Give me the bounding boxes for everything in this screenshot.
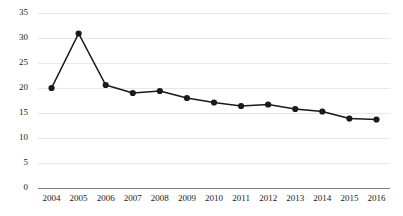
data-point-markers [48,30,379,122]
line-chart: 05101520253035 2004200520062007200820092… [0,0,403,216]
data-point [103,82,109,88]
x-tick-label: 2008 [145,194,175,203]
data-point [48,85,54,91]
data-series-line [52,34,377,120]
gridlines [38,13,390,163]
x-tick-label: 2012 [253,194,283,203]
x-tick-label: 2011 [226,194,256,203]
data-point [211,99,217,105]
y-tick-label: 10 [8,133,28,142]
data-point [184,95,190,101]
data-point [346,115,352,121]
x-tick-label: 2015 [334,194,364,203]
x-tick-label: 2013 [280,194,310,203]
data-point [130,90,136,96]
data-point [292,106,298,112]
data-point [265,101,271,107]
x-tick-label: 2005 [64,194,94,203]
x-tick-label: 2006 [91,194,121,203]
x-tick-label: 2004 [37,194,67,203]
y-tick-label: 15 [8,108,28,117]
data-point [319,108,325,114]
x-tick-label: 2014 [307,194,337,203]
x-tick-label: 2007 [118,194,148,203]
chart-plot-area [0,0,403,216]
data-point [76,30,82,36]
data-point [238,103,244,109]
y-tick-label: 5 [8,158,28,167]
x-tick-label: 2010 [199,194,229,203]
data-point [157,88,163,94]
y-tick-label: 35 [8,8,28,17]
x-tick-label: 2016 [361,194,391,203]
y-tick-label: 20 [8,83,28,92]
x-tick-label: 2009 [172,194,202,203]
y-tick-label: 25 [8,58,28,67]
y-tick-label: 0 [8,183,28,192]
data-point [373,116,379,122]
y-tick-label: 30 [8,33,28,42]
series-line [52,34,377,120]
